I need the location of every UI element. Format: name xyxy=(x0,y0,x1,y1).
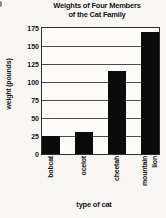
y-tick-150: 150 xyxy=(14,42,39,51)
scan-artifact xyxy=(0,1,2,7)
y-tick-25: 25 xyxy=(14,132,39,141)
bar-chart-figure: Weights of Four Members of the Cat Famil… xyxy=(0,0,166,218)
bar-bobcat xyxy=(42,136,60,154)
bar-cheetah xyxy=(108,71,126,154)
y-tick-75: 75 xyxy=(14,96,39,105)
y-tick-0: 0 xyxy=(14,150,39,159)
chart-title-line-2: of the Cat Family xyxy=(28,10,166,20)
y-tick-125: 125 xyxy=(14,60,39,69)
category-label-bobcat: bobcat xyxy=(46,156,56,196)
y-tick-50: 50 xyxy=(14,114,39,123)
bar-ocelot xyxy=(75,132,93,154)
y-axis-label: weight (pounds) xyxy=(4,53,14,115)
y-tick-175: 175 xyxy=(14,24,39,33)
plot-area xyxy=(42,28,159,154)
bar-mountain-lion xyxy=(141,32,159,154)
y-tick-100: 100 xyxy=(14,78,39,87)
category-label-ocelot: ocelot xyxy=(79,156,89,196)
category-label-cheetah: cheetah xyxy=(112,156,122,196)
category-label-mountain-lion: mountain lion xyxy=(140,156,160,196)
x-axis-label: type of cat xyxy=(42,200,146,209)
